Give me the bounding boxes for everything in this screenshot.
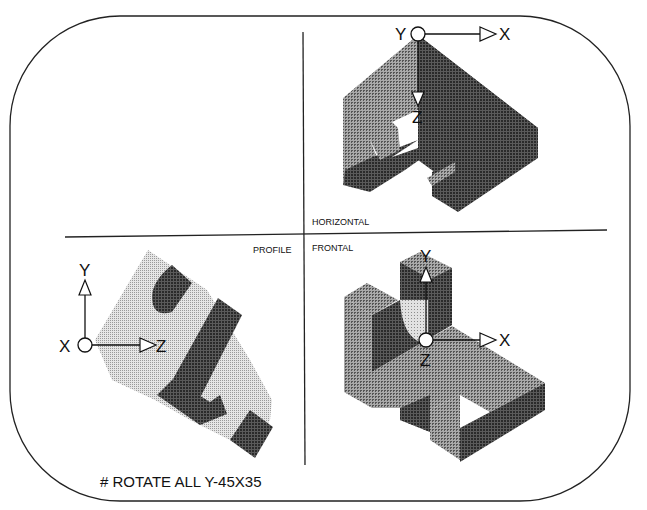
frontal-left-front — [344, 297, 372, 408]
x-arrow-icon — [480, 333, 496, 347]
frontal-y-axis-label: Y — [420, 247, 431, 266]
frontal-center-right — [430, 268, 452, 338]
horizontal-depth-axis-label: Y — [395, 25, 406, 44]
x-arrow-icon — [480, 27, 496, 41]
horizontal-x-axis-label: X — [499, 25, 510, 44]
frame-border — [10, 16, 630, 501]
profile-y-axis-label: Y — [79, 261, 90, 280]
horizontal-divider — [65, 230, 607, 237]
frontal-view-label: FRONTAL — [312, 243, 353, 253]
horizontal-z-axis-label: Z — [412, 108, 422, 127]
profile-x-axis-label: X — [59, 337, 70, 356]
origin-icon — [78, 338, 92, 352]
horizontal-view-label: HORIZONTAL — [312, 217, 369, 227]
frontal-x-axis-label: X — [499, 331, 510, 350]
profile-view-label: PROFILE — [253, 245, 292, 255]
origin-icon — [411, 27, 425, 41]
vertical-divider — [303, 32, 305, 465]
rotate-command-text: # ROTATE ALL Y-45X35 — [100, 473, 261, 490]
y-arrow-icon — [79, 280, 91, 295]
origin-icon — [419, 333, 433, 347]
horizontal-view — [343, 35, 538, 212]
profile-z-axis-label: Z — [156, 337, 166, 356]
profile-view — [95, 250, 273, 458]
frontal-z-axis-label: Z — [420, 351, 430, 370]
frontal-view — [344, 252, 545, 462]
diagram-canvas: Y X Z HORIZONTAL Y X Z PROFILE — [0, 0, 647, 510]
